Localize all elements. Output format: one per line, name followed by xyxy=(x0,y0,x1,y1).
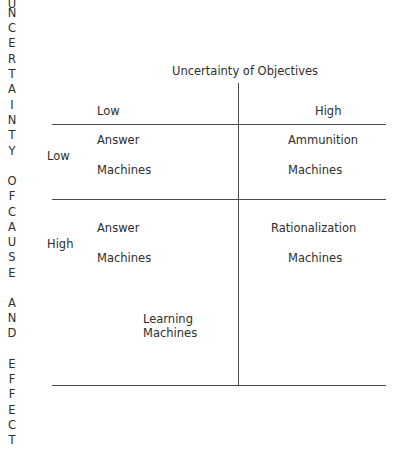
side-letter: O xyxy=(0,175,24,188)
side-letter: Y xyxy=(0,145,24,158)
side-letter: D xyxy=(0,327,24,340)
side-letter: E xyxy=(0,267,24,280)
side-letter: T xyxy=(0,434,24,447)
side-letter: A xyxy=(0,83,24,96)
row-header-low: Low xyxy=(47,149,70,163)
bottom-border xyxy=(52,385,386,386)
side-letter: R xyxy=(0,53,24,66)
cell-high-high-line2: Machines xyxy=(288,251,342,265)
vertical-divider xyxy=(238,83,239,386)
side-letter: N xyxy=(0,312,24,325)
side-letter: T xyxy=(0,68,24,81)
side-letter: T xyxy=(0,129,24,142)
side-letter: S xyxy=(0,251,24,264)
cell-high-low-line1: Answer xyxy=(97,221,139,235)
cell-learning-line2: Machines xyxy=(143,326,197,340)
cell-learning-line1: Learning xyxy=(143,312,193,326)
side-letter: I xyxy=(0,99,24,112)
cell-low-high-line1: Ammunition xyxy=(288,133,358,147)
cell-high-high-line1: Rationalization xyxy=(271,221,356,235)
side-letter: F xyxy=(0,388,24,401)
column-axis-title: Uncertainty of Objectives xyxy=(172,64,318,78)
side-letter: C xyxy=(0,206,24,219)
side-letter: E xyxy=(0,404,24,417)
column-header-high: High xyxy=(315,104,341,118)
side-letter: U xyxy=(0,236,24,249)
side-letter: C xyxy=(0,419,24,432)
side-letter: F xyxy=(0,373,24,386)
side-letter: N xyxy=(0,7,24,20)
row-divider xyxy=(52,199,386,200)
side-letter: C xyxy=(0,22,24,35)
row-header-high: High xyxy=(47,237,73,251)
cell-low-low-line1: Answer xyxy=(97,133,139,147)
side-letter: F xyxy=(0,190,24,203)
cell-high-low-line2: Machines xyxy=(97,251,151,265)
side-letter: A xyxy=(0,297,24,310)
column-header-low: Low xyxy=(97,104,120,118)
side-letter: A xyxy=(0,221,24,234)
side-letter: E xyxy=(0,358,24,371)
cell-low-high-line2: Machines xyxy=(288,163,342,177)
side-letter: N xyxy=(0,114,24,127)
side-letter: E xyxy=(0,37,24,50)
header-divider xyxy=(52,124,386,125)
cell-low-low-line2: Machines xyxy=(97,163,151,177)
